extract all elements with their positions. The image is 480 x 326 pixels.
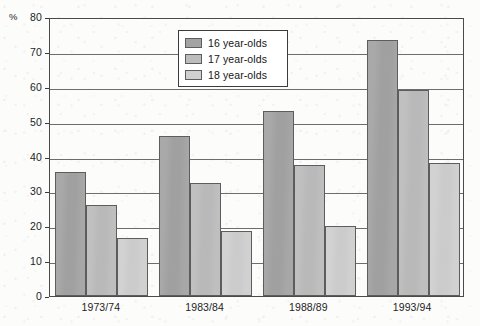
y-axis-tick-mark	[45, 297, 49, 298]
bar	[263, 111, 294, 296]
x-axis-tick-label: 1993/94	[382, 301, 442, 313]
y-axis-tick-label: 20	[12, 220, 42, 232]
x-axis-tick-label: 1988/89	[278, 301, 338, 313]
y-axis-tick-label: 10	[12, 255, 42, 267]
bar	[325, 226, 356, 296]
medium-gray-swatch	[185, 54, 202, 64]
bar	[86, 205, 117, 296]
legend-entry-label: 16 year-olds	[208, 37, 267, 49]
bar	[294, 165, 325, 296]
legend-entry: 18 year-olds	[185, 67, 287, 83]
y-axis-tick-label: 50	[12, 116, 42, 128]
bar	[398, 90, 429, 296]
bar	[190, 183, 221, 296]
legend-entry-label: 17 year-olds	[208, 53, 267, 65]
chart-legend: 16 year-olds17 year-olds18 year-olds	[178, 30, 288, 87]
bar	[117, 238, 148, 296]
bar	[221, 231, 252, 296]
bar	[55, 172, 86, 296]
y-axis-tick-label: 60	[12, 81, 42, 93]
bar	[159, 136, 190, 296]
legend-entry: 17 year-olds	[185, 51, 287, 67]
x-axis-tick-label: 1973/74	[71, 301, 131, 313]
y-axis-tick-label: 0	[12, 290, 42, 302]
y-axis-tick-label: 40	[12, 151, 42, 163]
x-axis-tick-label: 1983/84	[175, 301, 235, 313]
bar	[367, 40, 398, 296]
legend-entry: 16 year-olds	[185, 35, 287, 51]
y-axis-tick-label: 70	[12, 46, 42, 58]
legend-entry-label: 18 year-olds	[208, 69, 267, 81]
y-axis-tick-label: 30	[12, 185, 42, 197]
bar-chart-figure: % 80706050403020100 1973/741983/841988/8…	[0, 0, 480, 326]
light-gray-swatch	[185, 70, 202, 80]
bar	[429, 163, 460, 296]
dark-gray-swatch	[185, 38, 202, 48]
y-axis-tick-label: 80	[12, 11, 42, 23]
